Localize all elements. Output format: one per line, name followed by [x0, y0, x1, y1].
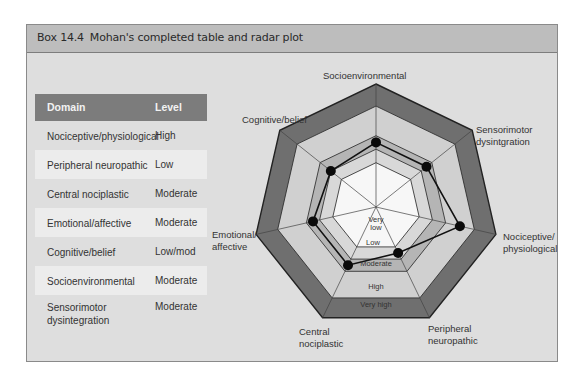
axis-label-line: Emotional/: [212, 229, 257, 241]
band-label-very-low-2: low: [370, 223, 382, 232]
axis-label-line: Peripheral: [428, 323, 478, 335]
radar-data-point: [393, 248, 403, 258]
axis-label-socioenvironmental: Socioenvironmental: [323, 70, 406, 82]
axis-label-line: affective: [212, 241, 257, 253]
radar-data-point: [343, 260, 353, 270]
axis-label-line: Central: [299, 326, 343, 338]
radar-plot: Very low Low Moderate High Very high: [0, 0, 587, 388]
axis-label-nociceptive: Nociceptive/ physiological: [503, 231, 557, 255]
axis-label-line: dysintgration: [476, 136, 533, 148]
axis-label-emotional: Emotional/ affective: [212, 229, 257, 253]
axis-label-cognitive: Cognitive/belief: [242, 114, 307, 126]
band-label-moderate: Moderate: [360, 259, 392, 268]
band-label-very-high: Very high: [360, 300, 391, 309]
radar-data-point: [422, 162, 432, 172]
axis-label-peripheral: Peripheral neuropathic: [428, 323, 478, 347]
axis-label-line: nociplastic: [299, 338, 343, 350]
radar-data-point: [455, 221, 465, 231]
axis-label-sensorimotor: Sensorimotor dysintgration: [476, 124, 533, 148]
axis-label-line: Nociceptive/: [503, 231, 557, 243]
radar-data-point: [371, 137, 381, 147]
band-label-low: Low: [366, 238, 380, 247]
axis-label-line: Sensorimotor: [476, 124, 533, 136]
radar-data-point: [326, 166, 336, 176]
axis-label-line: neuropathic: [428, 335, 478, 347]
band-label-high: High: [368, 282, 383, 291]
radar-data-point: [308, 216, 318, 226]
axis-label-central: Central nociplastic: [299, 326, 343, 350]
axis-label-line: physiological: [503, 243, 557, 255]
